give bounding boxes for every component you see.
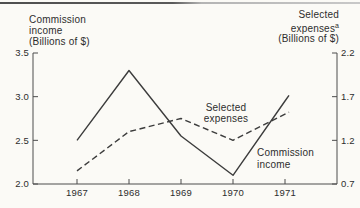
left-axis-tick-label: 2.0 bbox=[15, 178, 29, 189]
x-axis-tick-label: 1968 bbox=[118, 187, 140, 198]
series-label-commission-income: Commission income bbox=[257, 147, 314, 170]
dual-axis-line-chart: Commission income (Billions of $) Select… bbox=[0, 0, 360, 208]
left-axis-tick-label: 3.5 bbox=[15, 47, 29, 58]
series-label-selected-expenses-line1: Selected bbox=[203, 102, 249, 113]
x-axis-tick-label: 1967 bbox=[66, 187, 88, 198]
right-axis-tick-label: 2.2 bbox=[341, 47, 355, 58]
right-axis-tick-label: 1.7 bbox=[341, 91, 355, 102]
x-axis-tick-label: 1970 bbox=[222, 187, 244, 198]
series-label-selected-expenses: Selected expenses bbox=[203, 102, 249, 124]
plot-area: 3.53.02.52.02.21.71.20.71967196819691970… bbox=[0, 0, 360, 208]
x-axis-tick-label: 1971 bbox=[274, 187, 296, 198]
left-axis-tick-label: 2.5 bbox=[15, 135, 29, 146]
series-label-commission-income-line1: Commission bbox=[257, 147, 314, 159]
series-label-commission-income-line2: income bbox=[257, 159, 314, 171]
x-axis-tick-label: 1969 bbox=[170, 187, 192, 198]
right-axis-tick-label: 0.7 bbox=[341, 178, 355, 189]
series-label-selected-expenses-line2: expenses bbox=[203, 113, 249, 124]
left-axis-tick-label: 3.0 bbox=[15, 91, 29, 102]
right-axis-tick-label: 1.2 bbox=[341, 135, 355, 146]
